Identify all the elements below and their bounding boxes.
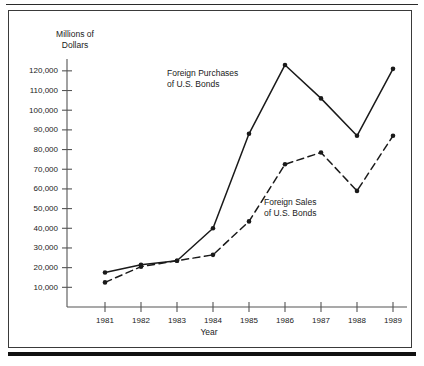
data-point-marker (211, 253, 216, 258)
data-point-marker (247, 132, 252, 137)
y-tick-label: 20,000 (4, 263, 58, 272)
annotation-foreign-purchases: Foreign Purchasesof U.S. Bonds (167, 68, 238, 90)
axis-group (62, 59, 407, 312)
series-group (103, 63, 396, 285)
data-point-marker (103, 280, 108, 285)
chart-plot-area: Millions ofDollars Year Foreign Purchase… (9, 11, 413, 349)
series-line (105, 65, 393, 273)
x-tick-label: 1983 (160, 316, 194, 325)
data-point-marker (355, 133, 360, 138)
annotation-purchases-line1: Foreign Purchases (167, 68, 238, 78)
x-tick-label: 1981 (88, 316, 122, 325)
series-line (105, 136, 393, 283)
annotation-foreign-sales: Foreign Salesof U.S. Bonds (264, 197, 316, 219)
y-tick-label: 50,000 (4, 204, 58, 213)
y-tick-label: 110,000 (4, 86, 58, 95)
data-point-marker (355, 189, 360, 194)
y-tick-label: 70,000 (4, 165, 58, 174)
data-point-marker (283, 63, 288, 68)
data-point-marker (175, 258, 180, 263)
x-tick-label: 1989 (376, 316, 410, 325)
data-point-marker (319, 150, 324, 155)
y-tick-label: 80,000 (4, 145, 58, 154)
y-axis-title-line1: Millions of (56, 29, 94, 39)
data-point-marker (103, 270, 108, 275)
line-chart-svg (9, 11, 413, 349)
y-tick-label: 40,000 (4, 224, 58, 233)
data-point-marker (283, 162, 288, 167)
y-axis-title-line2: Dollars (62, 40, 88, 50)
annotation-purchases-line2: of U.S. Bonds (167, 79, 219, 89)
data-point-marker (211, 226, 216, 231)
y-tick-label: 30,000 (4, 243, 58, 252)
data-point-marker (391, 67, 396, 72)
page-bar-bottom (8, 352, 416, 356)
data-point-marker (139, 264, 144, 269)
data-point-marker (247, 219, 252, 224)
x-tick-label: 1982 (124, 316, 158, 325)
page-rule-top (6, 4, 418, 5)
x-tick-label: 1986 (268, 316, 302, 325)
y-tick-label: 60,000 (4, 184, 58, 193)
y-tick-label: 120,000 (4, 66, 58, 75)
x-tick-label: 1987 (304, 316, 338, 325)
data-point-marker (319, 96, 324, 101)
x-tick-label: 1985 (232, 316, 266, 325)
y-tick-label: 90,000 (4, 125, 58, 134)
annotation-sales-line2: of U.S. Bonds (264, 208, 316, 218)
y-axis-title: Millions ofDollars (45, 29, 105, 50)
x-tick-label: 1984 (196, 316, 230, 325)
x-axis-title: Year (159, 327, 259, 338)
figure-border: Millions ofDollars Year Foreign Purchase… (8, 10, 412, 348)
y-tick-label: 100,000 (4, 106, 58, 115)
y-tick-label: 10,000 (4, 283, 58, 292)
data-point-marker (391, 133, 396, 138)
x-tick-label: 1988 (340, 316, 374, 325)
annotation-sales-line1: Foreign Sales (264, 197, 316, 207)
